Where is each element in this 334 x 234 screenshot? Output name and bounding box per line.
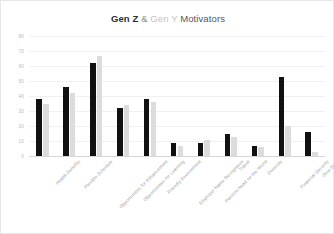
bar-gen-z[interactable] bbox=[36, 99, 42, 156]
bar-group[interactable] bbox=[171, 36, 183, 156]
bar-gen-z[interactable] bbox=[225, 134, 231, 157]
bar-group[interactable] bbox=[305, 36, 317, 156]
bar-gen-z[interactable] bbox=[279, 77, 285, 157]
bar-gen-z[interactable] bbox=[117, 108, 123, 156]
x-axis-tick-label: Health Benefits bbox=[55, 159, 82, 186]
bar-group[interactable] bbox=[144, 36, 156, 156]
chart-title-gen-z: Gen Z bbox=[111, 13, 138, 24]
bar-gen-z[interactable] bbox=[144, 99, 150, 156]
bar-gen-y[interactable] bbox=[258, 147, 264, 156]
chart-title-suffix: Motivators bbox=[177, 13, 225, 24]
bar-group[interactable] bbox=[90, 36, 102, 156]
y-axis-tick-label: 20 bbox=[18, 124, 24, 129]
y-axis: 80706050403020100 bbox=[1, 36, 27, 156]
x-axis-tick-label: Friendly Environment bbox=[166, 159, 202, 195]
bar-group[interactable] bbox=[117, 36, 129, 156]
y-axis-tick-label: 40 bbox=[18, 94, 24, 99]
plot-area bbox=[29, 36, 325, 156]
bar-gen-z[interactable] bbox=[63, 87, 69, 156]
bar-gen-y[interactable] bbox=[151, 102, 157, 156]
bar-gen-z[interactable] bbox=[305, 132, 311, 156]
bar-gen-y[interactable] bbox=[285, 126, 291, 156]
y-axis-tick-label: 50 bbox=[18, 79, 24, 84]
bar-gen-y[interactable] bbox=[124, 105, 130, 156]
y-axis-tick-label: 30 bbox=[18, 109, 24, 114]
bar-gen-z[interactable] bbox=[252, 146, 258, 157]
chart-title-gen-y: Gen Y bbox=[150, 13, 177, 24]
bar-gen-y[interactable] bbox=[178, 146, 184, 157]
bar-group[interactable] bbox=[252, 36, 264, 156]
bar-gen-z[interactable] bbox=[198, 143, 204, 157]
bar-group[interactable] bbox=[36, 36, 48, 156]
y-axis-tick-label: 60 bbox=[18, 64, 24, 69]
bar-gen-y[interactable] bbox=[204, 140, 210, 157]
y-axis-tick-label: 0 bbox=[21, 154, 24, 159]
y-axis-tick-label: 80 bbox=[18, 34, 24, 39]
bar-gen-y[interactable] bbox=[231, 137, 237, 157]
bar-gen-y[interactable] bbox=[70, 93, 76, 156]
x-axis-tick-label: Diversity bbox=[266, 159, 283, 176]
bar-group[interactable] bbox=[198, 36, 210, 156]
bar-gen-y[interactable] bbox=[97, 56, 103, 157]
x-axis-labels: Health BenefitsFlexible ScheduleOpportun… bbox=[29, 157, 325, 217]
bar-group[interactable] bbox=[63, 36, 75, 156]
bar-gen-z[interactable] bbox=[90, 63, 96, 156]
chart-container: Gen Z & Gen Y Motivators 807060504030201… bbox=[0, 0, 334, 234]
y-axis-tick-label: 70 bbox=[18, 49, 24, 54]
bar-group[interactable] bbox=[225, 36, 237, 156]
bar-gen-z[interactable] bbox=[171, 143, 177, 157]
chart-title: Gen Z & Gen Y Motivators bbox=[1, 13, 334, 24]
y-axis-tick-label: 10 bbox=[18, 139, 24, 144]
bar-gen-y[interactable] bbox=[43, 104, 49, 157]
chart-title-ampersand: & bbox=[138, 13, 150, 24]
bar-group[interactable] bbox=[279, 36, 291, 156]
x-axis-tick-label: Flexible Schedule bbox=[84, 159, 114, 189]
x-axis-tick-label: Employer Name Recognition bbox=[198, 159, 245, 206]
